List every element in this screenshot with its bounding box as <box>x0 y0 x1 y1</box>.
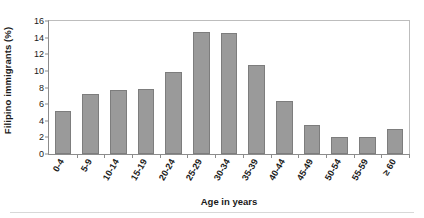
bar <box>221 33 238 154</box>
x-axis-tick-label-text: ≥ 60 <box>382 158 399 178</box>
x-axis-tick-label-text: 30-34 <box>213 158 232 182</box>
x-axis-tick-mark <box>381 154 382 158</box>
plot-area: 0246810121416 <box>48 20 410 155</box>
x-axis-tick-mark <box>132 154 133 158</box>
x-axis-tick-mark <box>298 154 299 158</box>
x-axis-tick-label-text: 0-4 <box>51 158 65 174</box>
bar <box>138 89 155 154</box>
x-axis-tick-label-text: 10-14 <box>102 158 121 182</box>
bar <box>165 72 182 154</box>
x-axis-tick-mark <box>104 154 105 158</box>
bar-series <box>49 21 409 154</box>
x-axis-tick-label-text: 25-29 <box>185 158 204 182</box>
bottom-divider <box>10 212 414 213</box>
x-axis-tick-mark <box>326 154 327 158</box>
x-axis-tick-label-text: 50-54 <box>323 158 342 182</box>
bar <box>359 137 376 154</box>
bar-chart-figure: Filipino immigrants (%) 0246810121416 0-… <box>0 0 424 218</box>
x-axis-tick-label: ≥ 60 <box>374 160 414 198</box>
bar <box>276 101 293 154</box>
x-axis-tick-mark <box>187 154 188 158</box>
x-axis-title: Age in years <box>48 196 410 207</box>
bar <box>110 90 127 154</box>
x-axis-tick-mark <box>215 154 216 158</box>
bar <box>82 94 99 154</box>
x-axis-tick-mark <box>354 154 355 158</box>
x-axis-tick-mark <box>77 154 78 158</box>
bar <box>387 129 404 154</box>
x-axis-tick-mark <box>271 154 272 158</box>
x-axis-tick-mark <box>409 154 410 158</box>
x-axis-tick-label-text: 35-39 <box>240 158 259 182</box>
x-axis-tick-label-text: 55-59 <box>351 158 370 182</box>
bar <box>248 65 265 154</box>
x-axis-tick-mark <box>160 154 161 158</box>
x-axis-tick-label-text: 45-49 <box>296 158 315 182</box>
x-axis-tick-label-text: 40-44 <box>268 158 287 182</box>
bar <box>331 137 348 154</box>
bar <box>304 125 321 154</box>
x-axis-tick-label-text: 20-24 <box>157 158 176 182</box>
y-axis-title: Filipino immigrants (%) <box>0 0 16 160</box>
x-axis-tick-label-text: 5-9 <box>79 158 93 174</box>
y-axis-title-text: Filipino immigrants (%) <box>3 26 14 133</box>
bar <box>193 32 210 154</box>
x-axis-tick-mark <box>243 154 244 158</box>
x-axis-tick-label-text: 15-19 <box>130 158 149 182</box>
bar <box>55 111 72 154</box>
